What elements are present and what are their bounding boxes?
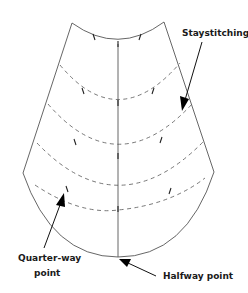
staystitching-arrow <box>180 42 202 111</box>
pattern-diagram: Staystitching Quarter-way point Halfway … <box>0 0 248 293</box>
staystitching-rows <box>35 63 205 211</box>
quarter-way-label-line2: point <box>34 268 61 278</box>
halfway-label: Halfway point <box>163 271 234 281</box>
halfway-arrow <box>119 259 156 276</box>
notch-marks <box>66 34 171 212</box>
quarter-way-label-line1: Quarter-way <box>18 253 81 263</box>
staystitching-label: Staystitching <box>182 28 248 38</box>
pattern-outline <box>23 22 214 257</box>
